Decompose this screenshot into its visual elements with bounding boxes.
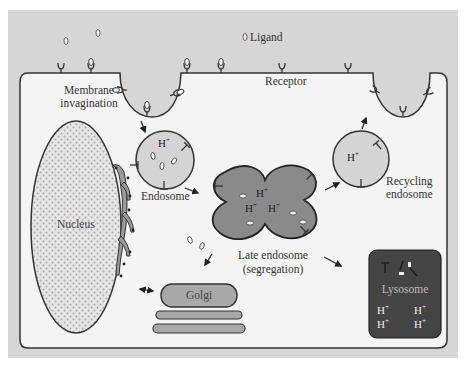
recycling-endosome-label-line1: Recycling: [386, 175, 433, 188]
late-endosome-label-line1: Late endosome: [228, 249, 318, 262]
receptor-bound-icon: [88, 59, 94, 74]
membrane-invagination-label-line2: invagination: [56, 97, 122, 110]
ligand-label: Ligand: [250, 31, 283, 44]
proton-label: H+: [347, 150, 359, 163]
proton-label: H+: [158, 136, 170, 149]
proton-label: H+: [414, 303, 426, 316]
proton-label: H+: [377, 317, 389, 330]
endosome-label: Endosome: [141, 190, 190, 203]
proton-label: H+: [377, 303, 389, 316]
recycling-endosome-label-line2: endosome: [386, 188, 433, 201]
proton-label: H+: [256, 186, 268, 199]
receptor-label: Receptor: [265, 75, 307, 88]
lysosome-label: Lysosome: [369, 283, 441, 296]
receptor-bound-icon: [218, 59, 224, 74]
proton-label: H+: [268, 201, 280, 214]
receptor-icon: [279, 63, 285, 73]
nucleus-label: Nucleus: [57, 218, 95, 231]
ligand-icon: [96, 30, 100, 37]
ligand-icon: [64, 38, 68, 45]
recycling-endosome: [333, 131, 389, 187]
receptor-bound-icon: [184, 59, 190, 74]
ligand-icon: [243, 34, 247, 41]
membrane-invagination-label-line1: Membrane: [58, 84, 120, 97]
proton-label: H+: [414, 317, 426, 330]
proton-label: H+: [245, 201, 257, 214]
golgi-label: Golgi: [161, 289, 237, 302]
receptor-icon: [345, 63, 351, 73]
late-endosome-label-line2: (segregation): [228, 263, 318, 276]
receptor-icon: [58, 63, 64, 73]
